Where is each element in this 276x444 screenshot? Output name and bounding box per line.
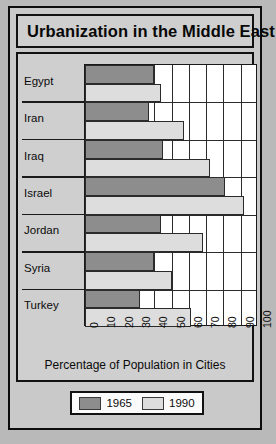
bar-jordan-1965 <box>85 215 161 234</box>
bar-iran-1990 <box>85 121 184 140</box>
x-tick-90: 90 <box>244 316 256 328</box>
bar-egypt-1990 <box>85 84 161 103</box>
legend-item-1965: 1965 <box>79 397 132 410</box>
bar-iraq-1990 <box>85 159 210 178</box>
page-title: Urbanization in the Middle East <box>18 22 272 41</box>
bar-group <box>85 140 256 177</box>
chart-figure: Urbanization in the Middle East EgyptIra… <box>8 6 262 430</box>
x-axis-ticks: 0102030405060708090100 <box>84 328 257 358</box>
bar-israel-1990 <box>85 196 244 215</box>
legend-swatch-1990 <box>142 397 164 410</box>
bar-syria-1990 <box>85 271 172 290</box>
bar-jordan-1990 <box>85 233 203 252</box>
category-label-egypt: Egypt <box>24 75 82 87</box>
legend-swatch-1965 <box>79 397 101 410</box>
x-tick-60: 60 <box>192 316 204 328</box>
category-divider <box>22 289 84 291</box>
category-label-iran: Iran <box>24 112 82 124</box>
x-tick-20: 20 <box>123 316 135 328</box>
category-label-iraq: Iraq <box>24 150 82 162</box>
bar-syria-1965 <box>85 252 154 271</box>
bar-group <box>85 102 256 139</box>
plot-area <box>84 64 257 326</box>
x-tick-30: 30 <box>140 316 152 328</box>
category-label-jordan: Jordan <box>24 224 82 236</box>
bar-group <box>85 177 256 214</box>
chart-title-box: Urbanization in the Middle East <box>16 14 254 48</box>
x-tick-10: 10 <box>105 316 117 328</box>
x-tick-100: 100 <box>261 310 272 328</box>
bar-israel-1965 <box>85 177 225 196</box>
x-tick-0: 0 <box>88 322 100 328</box>
bar-egypt-1965 <box>85 65 154 84</box>
x-axis-title: Percentage of Population in Cities <box>18 358 252 372</box>
legend-label-1990: 1990 <box>169 397 195 409</box>
category-label-turkey: Turkey <box>24 299 82 311</box>
x-tick-80: 80 <box>226 316 238 328</box>
chart-legend: 19651990 <box>70 391 204 415</box>
legend-item-1990: 1990 <box>142 397 195 410</box>
bar-iran-1965 <box>85 102 149 121</box>
category-divider <box>22 101 84 103</box>
bar-group <box>85 65 256 102</box>
category-label-syria: Syria <box>24 262 82 274</box>
bar-group <box>85 215 256 252</box>
x-tick-40: 40 <box>157 316 169 328</box>
category-label-israel: Israel <box>24 187 82 199</box>
category-divider <box>22 214 84 216</box>
category-divider <box>22 251 84 253</box>
category-divider <box>22 139 84 141</box>
category-divider <box>22 176 84 178</box>
bar-iraq-1965 <box>85 140 163 159</box>
chart-panel: EgyptIranIraqIsraelJordanSyriaTurkey 010… <box>16 52 254 382</box>
legend-label-1965: 1965 <box>106 397 132 409</box>
bar-group <box>85 252 256 289</box>
bar-turkey-1965 <box>85 290 140 309</box>
x-tick-70: 70 <box>209 316 221 328</box>
x-tick-50: 50 <box>175 316 187 328</box>
